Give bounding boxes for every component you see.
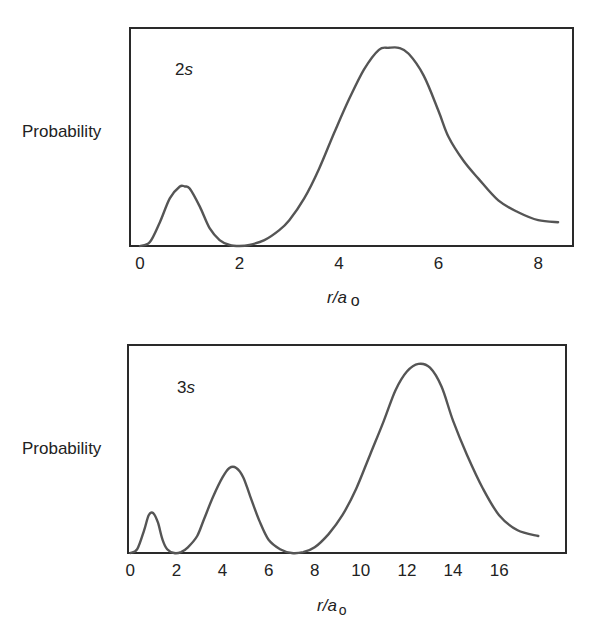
x-tick-label: 14 — [444, 561, 463, 581]
orbital-label-2s: 2s — [175, 60, 193, 80]
orbital-label-3s: 3s — [177, 378, 195, 398]
x-tick-label: 10 — [351, 561, 370, 581]
plot-frame-1 — [128, 345, 566, 553]
orbital-l-3s: s — [186, 378, 195, 397]
orbital-l-2s: s — [184, 60, 193, 79]
x-tick-label: 2 — [172, 561, 181, 581]
x-tick-label: 4 — [218, 561, 227, 581]
x-tick-label: 4 — [334, 254, 343, 274]
x-tick-label: 8 — [533, 254, 542, 274]
y-axis-label-3s: Probability — [22, 439, 101, 459]
x-axis-label-2s: r/ao — [327, 288, 360, 308]
x-tick-label: 6 — [264, 561, 273, 581]
x-tick-label: 2 — [235, 254, 244, 274]
probability-curve-0 — [140, 47, 558, 246]
x-axis-var-2s: r/a — [327, 288, 347, 307]
x-axis-label-3s: r/ao — [317, 596, 347, 616]
x-tick-label: 8 — [310, 561, 319, 581]
x-axis-sub-2s: o — [351, 292, 360, 309]
x-axis-sub-3s: o — [339, 602, 347, 618]
x-tick-label: 6 — [434, 254, 443, 274]
x-tick-label: 12 — [397, 561, 416, 581]
x-tick-label: 0 — [126, 561, 135, 581]
plot-frame-0 — [130, 28, 573, 246]
y-axis-label-2s: Probability — [22, 122, 101, 142]
x-tick-label: 16 — [490, 561, 509, 581]
x-axis-var-3s: r/a — [317, 596, 337, 615]
x-tick-label: 0 — [135, 254, 144, 274]
chart-canvas — [0, 0, 589, 633]
